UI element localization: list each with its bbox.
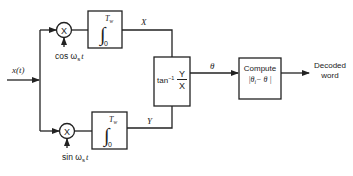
arctan-label: tan−1 — [157, 75, 174, 85]
bottom-multiplier-symbol: X — [64, 127, 70, 137]
phase-decoder-diagram: x(t) X X cos ωst sin ωst ∫ Tw 0 X ∫ Tw 0… — [0, 0, 353, 176]
compute-title: Compute — [244, 64, 277, 73]
output-label-line2: word — [320, 71, 338, 80]
output-label-line1: Decoded — [314, 61, 346, 70]
sin-ref-label: sin ωst — [62, 152, 89, 163]
y-label: Y — [147, 116, 153, 126]
bottom-integral-upper: Tw — [109, 115, 117, 125]
input-label: x(t) — [11, 65, 25, 75]
arctan-numerator: Y — [179, 69, 185, 79]
cos-ref-label: cos ωst — [55, 51, 84, 62]
x-signal-line — [122, 30, 172, 57]
bottom-integral-lower: 0 — [108, 141, 112, 148]
theta-label: θ — [210, 61, 215, 71]
x-label: X — [140, 17, 147, 27]
compute-formula: |θi− θ | — [248, 75, 271, 85]
top-integral-lower: 0 — [104, 40, 108, 47]
top-multiplier-symbol: X — [61, 26, 67, 36]
top-integral-upper: Tw — [105, 14, 113, 24]
arctan-denominator: X — [179, 81, 185, 91]
